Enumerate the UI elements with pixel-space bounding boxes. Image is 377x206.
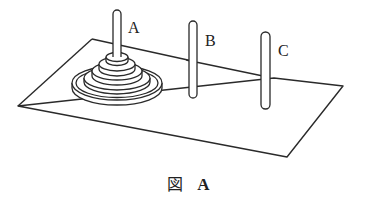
caption-letter: A	[197, 175, 209, 195]
peg-label-c: C	[278, 43, 289, 59]
caption-kanji: 図	[167, 171, 183, 195]
board	[18, 39, 343, 157]
figure-caption: 図A	[0, 171, 377, 195]
peg-a	[113, 10, 121, 57]
peg-c	[261, 32, 270, 109]
peg-label-a: A	[128, 20, 140, 36]
peg-label-b: B	[205, 33, 216, 49]
peg-b	[189, 21, 197, 98]
disk-stack	[72, 53, 162, 106]
